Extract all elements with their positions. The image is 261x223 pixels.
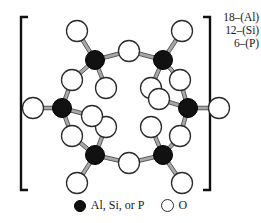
composition-label-stack: 18–(Al) 12–(Si) 6–(P) [223, 11, 259, 51]
oxygen-atom-bridging [170, 126, 191, 147]
oxygen-atom-terminal [141, 117, 162, 138]
t-site-atom [86, 146, 105, 165]
bond [103, 157, 120, 161]
composition-label-si: 12–(Si) [223, 24, 259, 37]
filled-circle-icon [74, 200, 86, 212]
ring-structure-diagram [0, 0, 261, 223]
oxygen-atom-terminal [67, 173, 88, 194]
oxygen-atom-bridging [119, 41, 140, 62]
oxygen-atom-bridging [170, 70, 191, 91]
oxygen-atom-terminal [67, 21, 88, 42]
t-site-atom [154, 51, 173, 70]
t-site-atom [179, 99, 198, 118]
composition-label-al: 18–(Al) [223, 11, 259, 24]
oxygen-atom-bridging [62, 126, 83, 147]
open-circle-icon [161, 199, 174, 212]
oxygen-atom-terminal [96, 78, 117, 99]
oxygen-atom-bridging [119, 153, 140, 174]
t-site-atom [53, 99, 72, 118]
oxygen-atom-terminal [209, 98, 230, 119]
legend-label-t-site: Al, Si, or P [91, 198, 145, 213]
legend-label-oxygen: O [179, 198, 188, 213]
bond [138, 157, 155, 161]
molecular-structure-figure: 18–(Al) 12–(Si) 6–(P) Al, Si, or P O [0, 0, 261, 223]
oxygen-atom-terminal [172, 21, 193, 42]
composition-label-p: 6–(P) [223, 37, 259, 50]
bond [167, 162, 176, 176]
oxygen-atom-terminal [149, 89, 170, 110]
oxygen-atom-bridging [62, 70, 83, 91]
bond [167, 39, 177, 54]
oxygen-atom-terminal [23, 98, 44, 119]
bond [82, 162, 91, 176]
bond [82, 39, 91, 54]
t-site-atom [86, 51, 105, 70]
oxygen-atom-terminal [82, 106, 103, 127]
oxygen-atom-terminal [172, 173, 193, 194]
t-site-atom [154, 146, 173, 165]
legend: Al, Si, or P O [0, 198, 261, 213]
